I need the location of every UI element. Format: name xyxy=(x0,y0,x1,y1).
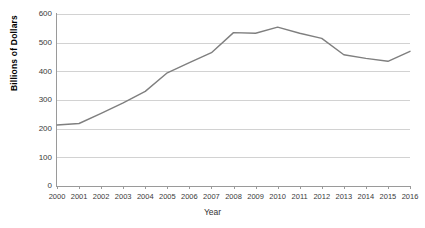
y-tick-label: 400 xyxy=(26,68,52,76)
x-tick-mark xyxy=(167,186,168,189)
gridline-100 xyxy=(57,157,410,158)
plot-area xyxy=(57,14,410,186)
y-tick-label: 300 xyxy=(26,96,52,104)
x-tick-mark xyxy=(145,186,146,189)
x-tick-mark xyxy=(366,186,367,189)
x-tick-mark xyxy=(344,186,345,189)
x-tick-mark xyxy=(300,186,301,189)
x-tick-label: 2016 xyxy=(395,192,425,201)
gridline-500 xyxy=(57,43,410,44)
x-tick-mark xyxy=(278,186,279,189)
x-axis-title: Year xyxy=(0,207,425,217)
gridline-400 xyxy=(57,71,410,72)
x-tick-mark xyxy=(101,186,102,189)
x-tick-mark xyxy=(189,186,190,189)
y-axis-title: Billions of Dollars xyxy=(9,0,19,113)
x-tick-mark xyxy=(123,186,124,189)
x-tick-mark xyxy=(410,186,411,189)
y-tick-label: 600 xyxy=(26,10,52,18)
y-axis-line xyxy=(56,13,57,187)
x-tick-mark xyxy=(256,186,257,189)
gridline-200 xyxy=(57,129,410,130)
x-tick-mark xyxy=(79,186,80,189)
y-tick-label: 100 xyxy=(26,154,52,162)
x-tick-mark xyxy=(322,186,323,189)
gridline-300 xyxy=(57,100,410,101)
line-chart: Billions of Dollars 600 500 400 300 200 … xyxy=(0,0,425,228)
y-tick-label: 500 xyxy=(26,39,52,47)
y-tick-label: 0 xyxy=(26,182,52,190)
x-tick-mark xyxy=(234,186,235,189)
x-tick-mark xyxy=(57,186,58,189)
gridline-600 xyxy=(57,14,410,15)
x-tick-mark xyxy=(388,186,389,189)
y-tick-label: 200 xyxy=(26,125,52,133)
x-tick-mark xyxy=(211,186,212,189)
